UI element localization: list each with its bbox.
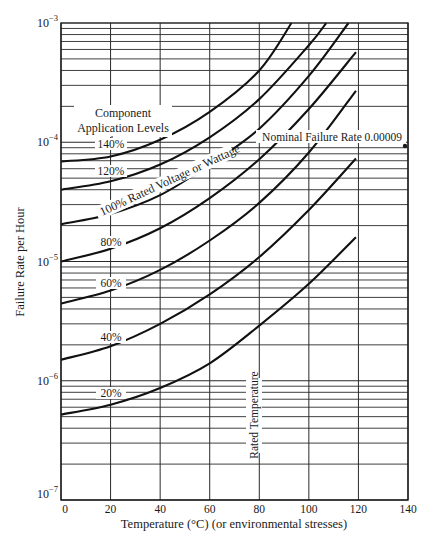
x-tick-label: 120 xyxy=(350,503,368,515)
nominal-failure-rate-annotation: Nominal Failure Rate 0.00009 xyxy=(256,130,407,148)
legend-title-line1: Component xyxy=(95,106,152,120)
svg-text:20%: 20% xyxy=(100,387,122,399)
nominal-rate-marker xyxy=(403,144,407,148)
svg-text:140%: 140% xyxy=(98,138,125,150)
curve-label-60: 60% xyxy=(96,277,126,289)
rated-temperature-annotation: Rated Temperature xyxy=(246,371,262,458)
x-tick-label: 0 xyxy=(62,503,68,515)
x-tick-label: 40 xyxy=(154,503,166,515)
y-axis-title: Failure Rate per Hour xyxy=(13,206,27,316)
y-tick-label: 10−3 xyxy=(37,13,58,30)
x-tick-label: 60 xyxy=(204,503,216,515)
failure-rate-chart: 020406080100120140 10−710−610−510−410−3 … xyxy=(0,0,431,547)
svg-text:Rated Temperature: Rated Temperature xyxy=(248,371,261,458)
svg-text:80%: 80% xyxy=(100,236,122,248)
legend-title-line2: Application Levels xyxy=(77,121,169,135)
y-tick-label: 10−7 xyxy=(37,484,58,501)
curve-label-40: 40% xyxy=(96,331,126,343)
curves xyxy=(61,23,356,415)
y-axis-ticks: 10−710−610−510−410−3 xyxy=(37,13,59,501)
svg-text:Nominal Failure Rate 0.00009: Nominal Failure Rate 0.00009 xyxy=(262,131,402,143)
x-tick-label: 20 xyxy=(105,503,117,515)
curve-40pct xyxy=(61,159,356,360)
curve-label-140: 140% xyxy=(95,138,127,150)
svg-text:120%: 120% xyxy=(98,165,125,177)
svg-text:60%: 60% xyxy=(100,277,122,289)
x-axis-ticks: 020406080100120140 xyxy=(62,503,417,515)
curve-label-20: 20% xyxy=(96,387,126,399)
y-tick-label: 10−5 xyxy=(37,252,58,269)
x-tick-label: 80 xyxy=(254,503,266,515)
curve-label-120: 120% xyxy=(95,165,127,177)
y-tick-label: 10−4 xyxy=(37,132,59,149)
curve-label-80: 80% xyxy=(96,236,126,248)
x-tick-label: 100 xyxy=(300,503,318,515)
x-tick-label: 140 xyxy=(399,503,417,515)
svg-text:40%: 40% xyxy=(100,331,122,343)
y-tick-label: 10−6 xyxy=(37,371,58,388)
x-axis-title: Temperature (°C) (or environmental stres… xyxy=(121,517,347,531)
